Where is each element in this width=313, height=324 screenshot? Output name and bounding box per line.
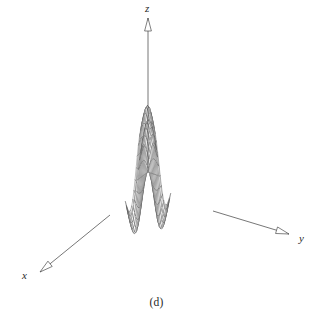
x-axis-line bbox=[40, 215, 110, 272]
figure-caption: (d) bbox=[0, 296, 313, 308]
figure-container: z y x (d) bbox=[0, 0, 313, 324]
z-axis-label: z bbox=[144, 2, 150, 14]
surface-plot-svg: z y x bbox=[0, 0, 313, 324]
axis-arrowhead bbox=[276, 227, 289, 234]
axes-group bbox=[40, 18, 289, 272]
y-axis-label: y bbox=[298, 232, 304, 244]
axis-arrowhead bbox=[40, 261, 52, 272]
axis-arrowhead bbox=[145, 18, 152, 31]
x-axis-label: x bbox=[21, 269, 27, 281]
